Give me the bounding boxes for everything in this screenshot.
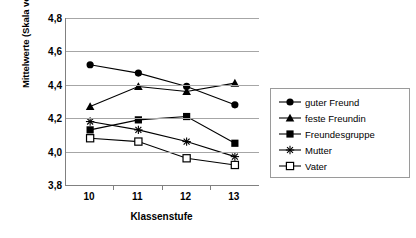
data-point-filled-circle [135, 70, 142, 77]
legend-label: Freundesgruppe [305, 129, 375, 140]
legend-item-guter-freund[interactable]: guter Freund [277, 94, 409, 110]
legend-marker-filled-square-icon [277, 127, 303, 141]
x-tick-label: 11 [117, 191, 157, 202]
y-tick-label: 3,8 [32, 180, 62, 191]
legend-label: Mutter [305, 145, 332, 156]
legend-label: feste Freundin [305, 113, 366, 124]
x-tick-mark [113, 185, 114, 190]
data-point-asterisk [182, 137, 190, 145]
legend-marker-filled-triangle-icon [277, 111, 303, 125]
series-feste-freundin [86, 79, 239, 110]
data-point-asterisk [286, 146, 294, 154]
y-axis-tick-labels: 3,84,04,24,44,64,8 [30, 0, 62, 238]
legend-label: Vater [305, 161, 327, 172]
data-point-open-square [183, 155, 190, 162]
y-tick-label: 4,0 [32, 146, 62, 157]
data-point-filled-circle [87, 61, 94, 68]
data-point-filled-triangle [86, 102, 95, 110]
legend-marker-filled-circle-icon [277, 95, 303, 109]
x-tick-label: 10 [69, 191, 109, 202]
series-line [90, 83, 235, 106]
x-tick-mark [210, 185, 211, 190]
data-point-filled-square [286, 130, 293, 137]
data-point-filled-triangle [134, 82, 143, 90]
data-point-asterisk [231, 152, 239, 160]
legend-label: guter Freund [305, 97, 359, 108]
x-axis-title: Klassenstufe [65, 211, 258, 222]
gridline [66, 152, 259, 153]
data-point-open-square [87, 135, 94, 142]
x-tick-label: 12 [166, 191, 206, 202]
data-point-asterisk [134, 126, 142, 134]
data-point-filled-circle [286, 98, 293, 105]
y-tick-label: 4,4 [32, 79, 62, 90]
data-point-open-square [231, 161, 238, 168]
data-point-filled-circle [231, 101, 238, 108]
gridline [66, 18, 259, 19]
data-point-open-square [286, 162, 293, 169]
series-layer [66, 18, 259, 185]
legend-marker-open-square-icon [277, 159, 303, 173]
plot-area [65, 18, 259, 186]
legend-item-mutter[interactable]: Mutter [277, 142, 409, 158]
legend-item-freundesgruppe[interactable]: Freundesgruppe [277, 126, 409, 142]
gridline [66, 51, 259, 52]
legend-marker-asterisk-icon [277, 143, 303, 157]
y-tick-label: 4,8 [32, 13, 62, 24]
chart-legend: guter Freundfeste FreundinFreundesgruppe… [270, 88, 410, 178]
x-tick-mark [162, 185, 163, 190]
gridline [66, 118, 259, 119]
chart-figure: Mittelwerte (Skala von 1 bis 5) 3,84,04,… [0, 0, 416, 238]
x-tick-label: 13 [214, 191, 254, 202]
legend-item-vater[interactable]: Vater [277, 158, 409, 174]
legend-item-feste-freundin[interactable]: feste Freundin [277, 110, 409, 126]
y-tick-label: 4,6 [32, 46, 62, 57]
y-tick-label: 4,2 [32, 113, 62, 124]
gridline [66, 85, 259, 86]
data-point-filled-square [231, 140, 238, 147]
data-point-filled-square [87, 126, 94, 133]
data-point-open-square [135, 138, 142, 145]
